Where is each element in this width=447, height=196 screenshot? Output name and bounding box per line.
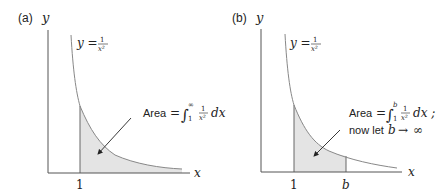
y-axis-label-a: y — [41, 10, 50, 25]
now-let-text-b: now let — [349, 124, 384, 136]
curve-frac-den-b: x² — [311, 45, 318, 53]
equals-b: = — [376, 106, 386, 120]
panel-label-a: (a) — [18, 11, 33, 25]
curve-frac-num-b: 1 — [313, 36, 317, 44]
curve-frac-den-a: x² — [98, 45, 105, 53]
tick-label-b-b: b — [342, 178, 350, 192]
tick-label-1-b: 1 — [290, 178, 298, 192]
equals-a: = — [170, 106, 180, 120]
limit-var-b: b — [388, 123, 396, 137]
area-annotation-a: Area = ∫ ∞ 1 1 x² dx — [143, 101, 226, 124]
y-axis-label-b: y — [255, 10, 264, 25]
integral-upper-a: ∞ — [188, 101, 194, 109]
x-axis-label-a: x — [194, 166, 201, 180]
panel-a: (a) y x 1 y = 1 x² Area = ∫ ∞ 1 1 x² dx — [18, 10, 226, 192]
dx-a: dx — [211, 106, 226, 120]
curve-label-a: y = 1 x² — [76, 36, 108, 53]
integrand-num-b: 1 — [403, 105, 407, 113]
integral-lower-b: 1 — [393, 115, 397, 123]
panel-label-b: (b) — [232, 11, 247, 25]
dx-b: dx ; — [413, 106, 435, 120]
integral-upper-b: b — [393, 101, 398, 109]
annotation-arrow-a — [98, 118, 131, 154]
area-word-b: Area — [349, 107, 373, 119]
integrand-num-a: 1 — [201, 105, 205, 113]
curve-label-lhs-a: y = — [76, 36, 98, 50]
x-axis-label-b: x — [408, 165, 415, 179]
shaded-area-a — [80, 106, 182, 173]
integral-lower-a: 1 — [188, 115, 192, 123]
shaded-area-b — [294, 105, 346, 172]
curve-label-b: y = 1 x² — [289, 36, 321, 53]
curve-frac-num-a: 1 — [100, 36, 104, 44]
area-annotation-b: Area = ∫ b 1 1 x² dx ; now let b → ∞ — [349, 101, 435, 137]
limit-arrow-b: → — [398, 123, 408, 137]
curve-label-lhs-b: y = — [289, 36, 311, 50]
area-word-a: Area — [143, 107, 167, 119]
tick-label-1-a: 1 — [76, 178, 84, 192]
figure-canvas: (a) y x 1 y = 1 x² Area = ∫ ∞ 1 1 x² dx — [0, 0, 447, 196]
integrand-den-b: x² — [401, 114, 408, 122]
limit-infinity-b: ∞ — [413, 123, 423, 137]
panel-b: (b) y x 1 b y = 1 x² Area = ∫ b 1 1 x² d… — [232, 10, 435, 192]
integrand-den-a: x² — [199, 114, 206, 122]
